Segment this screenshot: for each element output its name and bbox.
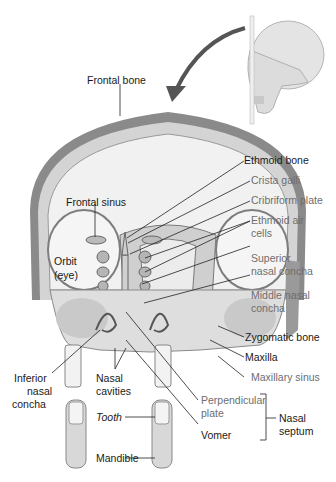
label-superior-nasal-concha-1: Superior [251,252,291,265]
label-ethmoid-air-cells-1: Ethmoid air [251,214,304,227]
skull-orientation-icon [248,16,324,124]
orientation-arrow [176,28,245,90]
label-inferior-nasal-concha-1: Inferior [14,372,47,385]
label-ethmoid-air-cells-2: cells [251,227,272,240]
left-maxillary-sinus [56,298,108,338]
label-inferior-nasal-concha-3: concha [12,398,46,411]
label-superior-nasal-concha-2: nasal concha [251,265,313,278]
label-frontal-sinus: Frontal sinus [66,196,126,209]
skull-coronal-section-illustration [0,0,336,482]
label-middle-nasal-concha-1: Middle nasal [251,289,310,302]
label-inferior-nasal-concha-2: nasal [27,385,52,398]
label-orbit-1: Orbit [54,255,77,268]
label-nasal-cavities-1: Nasal [96,372,123,385]
label-orbit-2: (eye) [54,269,78,282]
label-mandible: Mandible [96,452,139,465]
label-zygomatic-bone: Zygomatic bone [245,331,320,344]
label-cribriform-plate: Cribriform plate [251,194,323,207]
label-vomer: Vomer [201,429,231,442]
label-perpendicular-plate-1: Perpendicular [201,394,266,407]
label-middle-nasal-concha-2: concha [251,302,285,315]
label-maxillary-sinus: Maxillary sinus [251,371,320,384]
label-frontal-bone: Frontal bone [87,74,146,87]
label-nasal-septum-2: septum [279,425,313,438]
label-ethmoid-bone: Ethmoid bone [244,154,309,167]
label-nasal-septum-1: Nasal [279,412,306,425]
label-perpendicular-plate-2: plate [201,407,224,420]
label-crista-galli: Crista galli [251,174,300,187]
label-tooth: Tooth [96,411,122,424]
label-nasal-cavities-2: cavities [96,385,131,398]
label-maxilla: Maxilla [245,351,278,364]
